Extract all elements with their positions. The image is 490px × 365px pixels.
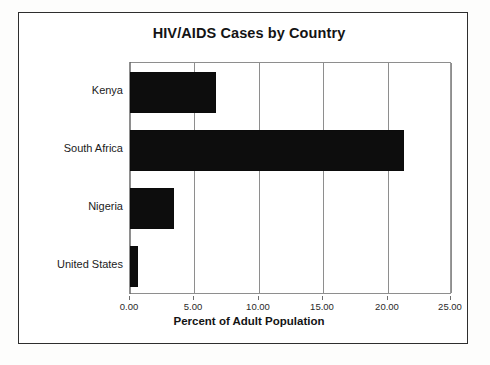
tick-mark <box>129 296 130 300</box>
tick-label-20.00: 20.00 <box>357 301 417 312</box>
tick-label-5.00: 5.00 <box>163 301 223 312</box>
bar-nigeria <box>130 188 174 229</box>
tick-mark <box>322 296 323 300</box>
plot-area <box>129 62 451 294</box>
tick-label-10.00: 10.00 <box>228 301 288 312</box>
category-label-south-africa: South Africa <box>19 142 123 154</box>
bar-south-africa <box>130 130 404 171</box>
x-axis-title: Percent of Adult Population <box>79 315 419 327</box>
tick-mark <box>258 296 259 300</box>
tick-mark <box>387 296 388 300</box>
gridline <box>451 63 452 293</box>
gridline <box>388 63 389 293</box>
chart-frame: HIV/AIDS Cases by Country KenyaSouth Afr… <box>18 12 468 344</box>
tick-mark <box>450 296 451 300</box>
tick-mark <box>193 296 194 300</box>
gridline <box>323 63 324 293</box>
chart-title: HIV/AIDS Cases by Country <box>79 25 419 41</box>
tick-label-15.00: 15.00 <box>292 301 352 312</box>
category-label-kenya: Kenya <box>19 84 123 96</box>
tick-label-0.00: 0.00 <box>99 301 159 312</box>
bar-kenya <box>130 72 216 113</box>
bar-chart: HIV/AIDS Cases by Country KenyaSouth Afr… <box>19 13 469 345</box>
value-axis-ticks: 0.005.0010.0015.0020.0025.00 <box>129 296 451 314</box>
tick-label-25.00: 25.00 <box>420 301 480 312</box>
gridline <box>259 63 260 293</box>
category-axis-labels: KenyaSouth AfricaNigeriaUnited States <box>19 62 123 294</box>
category-label-united-states: United States <box>19 258 123 270</box>
bar-united-states <box>130 246 138 287</box>
scanned-page: HIV/AIDS Cases by Country KenyaSouth Afr… <box>0 0 490 365</box>
category-label-nigeria: Nigeria <box>19 200 123 212</box>
